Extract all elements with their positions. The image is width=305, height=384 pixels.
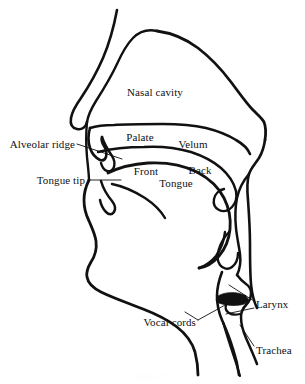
label-back: Back <box>188 165 211 176</box>
label-nasal-cavity: Nasal cavity <box>127 87 183 98</box>
label-larynx: Larynx <box>256 299 288 310</box>
label-tongue: Tongue <box>159 178 192 189</box>
mouth-floor-line <box>112 184 165 218</box>
nostril-line <box>87 30 157 122</box>
posterior-head-contour <box>247 140 265 308</box>
label-tongue-tip: Tongue tip <box>37 175 85 186</box>
larynx-posterior-wall <box>237 275 257 364</box>
label-alveolar-ridge: Alveolar ridge <box>10 139 75 150</box>
label-trachea: Trachea <box>256 345 292 356</box>
label-vocal-cords: Vocal cords <box>143 317 196 328</box>
figure-caption-faint: Figure 2.1 <box>134 371 171 381</box>
label-palate: Palate <box>126 132 153 143</box>
nose-bridge-line <box>71 10 117 129</box>
lower-incisor <box>100 181 115 214</box>
chin-jaw-contour <box>84 180 198 375</box>
label-velum: Velum <box>178 139 207 150</box>
trachea-wall-anterior <box>223 322 240 376</box>
vocal-tract-diagram: Nasal cavity Palate Velum Alveolar ridge… <box>0 0 305 384</box>
alveolar-ridge-leader <box>77 144 122 159</box>
label-front: Front <box>134 166 158 177</box>
